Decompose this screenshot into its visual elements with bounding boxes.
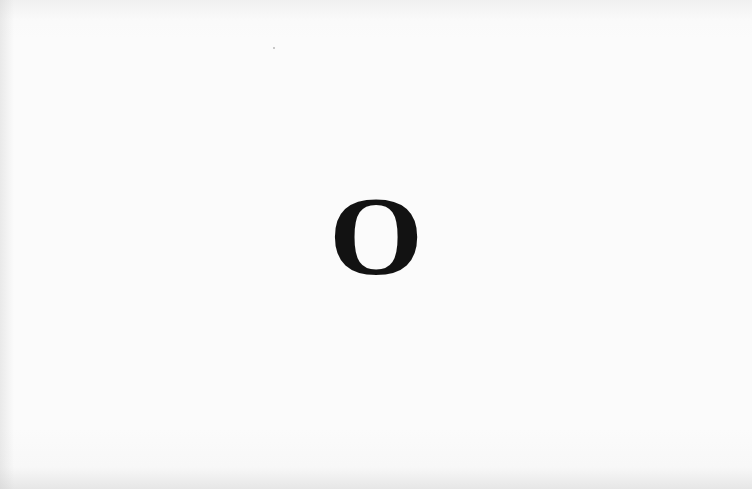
scanned-page: O — [0, 0, 752, 489]
scan-speck — [273, 47, 275, 49]
large-letter: O — [322, 176, 430, 296]
